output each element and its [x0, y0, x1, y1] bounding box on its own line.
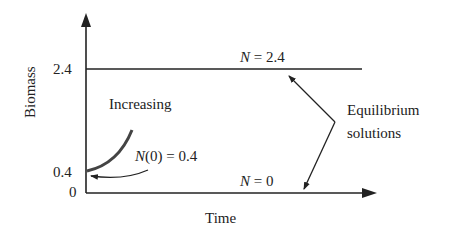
curve-label-increasing: Increasing: [109, 97, 171, 112]
variable-n: N: [240, 49, 250, 65]
y-axis: [81, 13, 91, 193]
x-axis: [86, 188, 377, 198]
initial-condition-rest: (0) = 0.4: [145, 148, 197, 164]
y-tick-0: 0: [69, 185, 77, 200]
increasing-solution-curve: [87, 130, 132, 171]
y-axis-arrow-icon: [81, 13, 91, 27]
equilibrium-arrow-lower: [304, 122, 335, 189]
x-axis-arrow-icon: [362, 188, 377, 198]
initial-condition-label: N(0) = 0.4: [135, 149, 197, 164]
diagram-canvas: [0, 0, 468, 239]
variable-n: N: [135, 148, 145, 164]
y-tick-0-4: 0.4: [53, 165, 72, 180]
annotation-line-1: Equilibrium: [347, 103, 420, 118]
initial-condition-arrow: [91, 170, 148, 178]
equilibrium-label-upper: N = 2.4: [240, 50, 285, 65]
y-axis-label: Biomass: [22, 66, 39, 118]
equilibrium-arrow-upper: [289, 76, 335, 122]
equation-rest: = 0: [250, 173, 273, 189]
equilibrium-label-lower: N = 0: [240, 174, 273, 189]
annotation-line-2: solutions: [347, 126, 401, 141]
x-axis-label: Time: [205, 211, 236, 226]
equation-rest: = 2.4: [250, 49, 285, 65]
y-tick-2-4: 2.4: [53, 62, 72, 77]
variable-n: N: [240, 173, 250, 189]
